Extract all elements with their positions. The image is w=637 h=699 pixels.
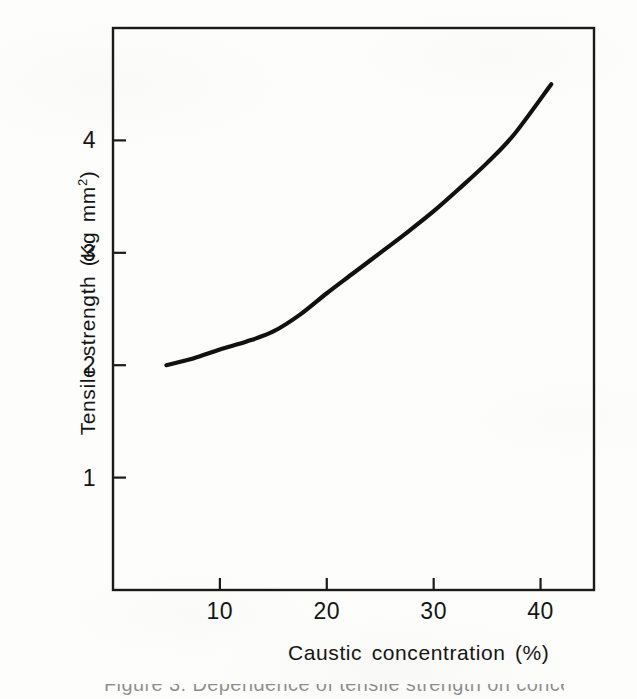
y-axis-ticks bbox=[113, 140, 126, 477]
figure-panel: 10 20 30 40 4 3 2 1 Caustic concentratio… bbox=[0, 0, 637, 699]
x-axis-title: Caustic concentration (%) bbox=[288, 641, 549, 665]
y-tick-label-1: 1 bbox=[62, 466, 96, 489]
figure-caption-clipped: Figure 3. Dependence of tensile strength… bbox=[104, 684, 564, 699]
x-tick-label-10: 10 bbox=[207, 600, 234, 623]
y-axis-title-text: Tensile strength (Kg mm bbox=[76, 186, 99, 435]
x-tick-label-20: 20 bbox=[313, 600, 340, 623]
data-series-line bbox=[166, 84, 551, 365]
y-axis-title-close: ) bbox=[76, 171, 99, 179]
axes-frame bbox=[113, 28, 594, 590]
x-tick-label-30: 30 bbox=[420, 600, 447, 623]
x-axis-ticks bbox=[220, 578, 541, 590]
figure-caption-text: Figure 3. Dependence of tensile strength… bbox=[104, 684, 564, 696]
x-tick-label-40: 40 bbox=[527, 600, 554, 623]
y-axis-title-superscript: 2 bbox=[75, 178, 90, 186]
y-axis-title: Tensile strength (Kg mm2) bbox=[76, 153, 100, 453]
y-tick-label-4: 4 bbox=[62, 129, 96, 152]
